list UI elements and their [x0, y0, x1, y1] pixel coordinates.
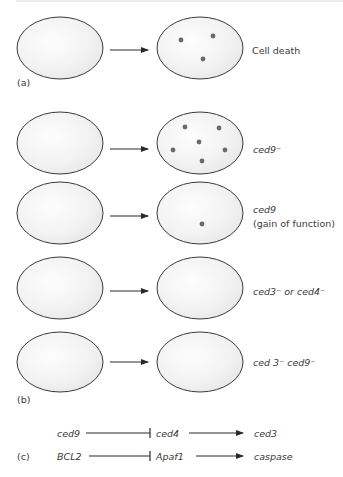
panel-a: Cell death (a) [17, 17, 300, 88]
gene-a: BCL2 [57, 451, 82, 462]
apoptotic-dot [200, 222, 205, 227]
panel-b: ced9⁻ ced9 (gain of function) ced3⁻ or c… [17, 112, 335, 405]
cell-before [17, 332, 103, 392]
gene-a: ced9 [57, 428, 80, 439]
apoptotic-dot [211, 34, 216, 39]
b-row-4: ced 3⁻ ced9⁻ [17, 332, 315, 392]
cell-after [157, 182, 243, 244]
b-row-3: ced3⁻ or ced4⁻ [17, 257, 325, 319]
apoptotic-dot [197, 140, 202, 145]
b-row-1: ced9⁻ [17, 112, 281, 174]
apoptotic-dot [179, 38, 184, 43]
pathway-row-2: (c) BCL2 Apaf1 caspase [17, 451, 293, 462]
cell-before [17, 182, 103, 244]
cell-after [157, 332, 243, 392]
pathway-row-1: ced9 ced4 ced3 [57, 428, 277, 439]
panel-label-c: (c) [17, 451, 30, 462]
apoptotic-dot [217, 126, 222, 131]
genotype-label: ced3⁻ or ced4⁻ [253, 286, 325, 297]
dots [200, 222, 205, 227]
apoptotic-dot [223, 148, 228, 153]
gene-b: Apaf1 [155, 451, 184, 462]
panel-c: ced9 ced4 ced3 (c) BCL2 Apaf1 caspase [17, 428, 293, 462]
cell-before [17, 112, 103, 174]
b-row-2: ced9 (gain of function) [17, 182, 335, 244]
apoptotic-dot [171, 148, 176, 153]
apoptotic-dot [201, 57, 206, 62]
panel-label-a: (a) [17, 77, 30, 88]
apoptotic-dot [200, 159, 205, 164]
panel-label-b: (b) [17, 394, 30, 405]
genotype-sublabel: (gain of function) [253, 218, 335, 229]
genotype-label: ced 3⁻ ced9⁻ [253, 357, 315, 368]
cell-before [17, 17, 103, 79]
cell-after [157, 257, 243, 319]
apoptosis-diagram: Cell death (a) ced9⁻ ced9 (gain of funct… [0, 0, 343, 477]
outcome-label: Cell death [252, 45, 300, 56]
gene-c: ced3 [254, 428, 277, 439]
apoptotic-dot [183, 125, 188, 130]
cell-after [157, 17, 243, 79]
genotype-label: ced9 [253, 204, 276, 215]
gene-c: caspase [254, 451, 293, 462]
gene-b: ced4 [156, 428, 179, 439]
cell-before [17, 257, 103, 319]
genotype-label: ced9⁻ [253, 144, 281, 155]
